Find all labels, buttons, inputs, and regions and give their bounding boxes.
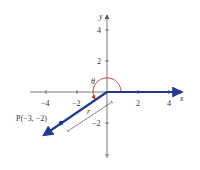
- y-tick-label-neg2: −2: [92, 119, 101, 128]
- x-tick-label-neg2: −2: [72, 99, 81, 108]
- point-p-marker: [59, 121, 63, 125]
- x-tick-label-neg4: −4: [41, 99, 50, 108]
- y-axis-label: y: [98, 12, 103, 21]
- point-p-label: P(−3, −2): [16, 114, 47, 123]
- y-tick-label-4: 4: [97, 26, 101, 35]
- radius-label: r: [87, 107, 91, 116]
- x-tick-label-4: 4: [167, 99, 171, 108]
- x-axis-label: x: [179, 94, 184, 103]
- angle-theta-label: θ: [91, 77, 95, 86]
- coordinate-plane: −4 −2 2 4 4 2 −2 x y θ P(−3, −2) r: [0, 0, 200, 170]
- x-tick-label-2: 2: [136, 99, 140, 108]
- y-tick-label-2: 2: [97, 57, 101, 66]
